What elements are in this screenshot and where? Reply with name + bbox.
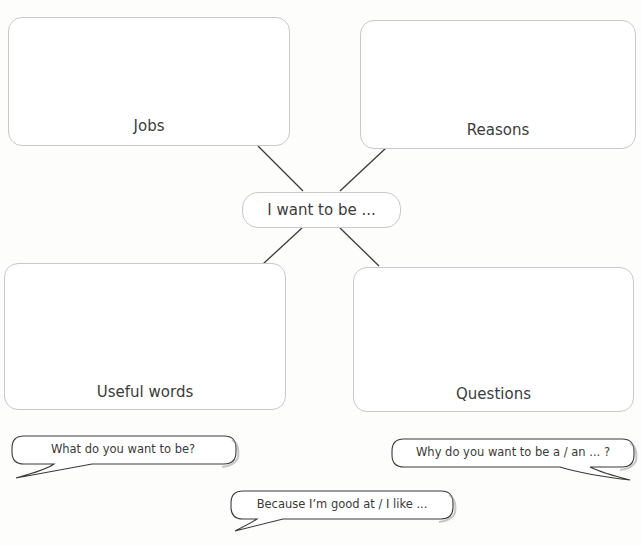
reasons-label: Reasons bbox=[361, 121, 635, 139]
useful-words-label: Useful words bbox=[5, 383, 285, 401]
jobs-label: Jobs bbox=[9, 117, 289, 135]
center-label: I want to be ... bbox=[267, 201, 375, 219]
reasons-box[interactable]: Reasons bbox=[360, 20, 636, 149]
useful-words-box[interactable]: Useful words bbox=[4, 263, 286, 410]
questions-label: Questions bbox=[354, 385, 633, 403]
speech-bubble-why: Why do you want to be a / an ... ? bbox=[390, 437, 640, 487]
speech-bubble-because: Because I’m good at / I like ... bbox=[229, 489, 459, 541]
jobs-box[interactable]: Jobs bbox=[8, 17, 290, 146]
questions-box[interactable]: Questions bbox=[353, 267, 634, 412]
speech-bubble-text: Why do you want to be a / an ... ? bbox=[390, 445, 636, 459]
speech-bubble-question: What do you want to be? bbox=[10, 434, 240, 484]
speech-bubble-text: Because I’m good at / I like ... bbox=[229, 497, 455, 511]
speech-bubble-text: What do you want to be? bbox=[10, 442, 236, 456]
center-node: I want to be ... bbox=[242, 192, 401, 228]
